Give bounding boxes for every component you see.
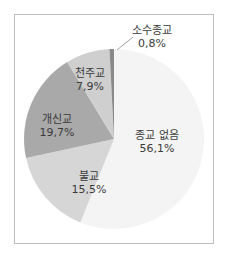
label-no-religion-pct: 56,1% (135, 142, 179, 155)
label-minor-religion-name: 소수종교 (132, 24, 172, 37)
label-no-religion: 종교 없음 56,1% (135, 129, 179, 155)
pie-chart (0, 0, 226, 256)
label-catholic-name: 천주교 (75, 67, 105, 80)
label-minor-religion-pct: 0,8% (132, 37, 172, 50)
label-protestant: 개신교 19,7% (40, 113, 75, 139)
label-buddhism-name: 불교 (72, 170, 107, 183)
minor-religion-leader-line (117, 37, 133, 50)
label-buddhism: 불교 15,5% (72, 170, 107, 196)
label-minor-religion: 소수종교 0,8% (132, 24, 172, 50)
label-no-religion-name: 종교 없음 (135, 129, 179, 142)
label-catholic-pct: 7,9% (75, 80, 105, 93)
label-buddhism-pct: 15,5% (72, 183, 107, 196)
label-catholic: 천주교 7,9% (75, 67, 105, 93)
label-protestant-name: 개신교 (40, 113, 75, 126)
label-protestant-pct: 19,7% (40, 126, 75, 139)
